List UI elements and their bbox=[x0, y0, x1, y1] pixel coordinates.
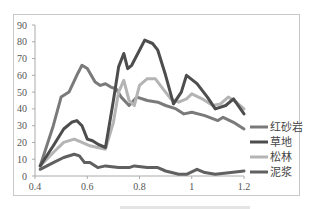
series-line-0 bbox=[40, 65, 244, 166]
series-line-1 bbox=[40, 40, 244, 166]
x-tick-label: 0.6 bbox=[81, 181, 94, 192]
y-tick-label: 50 bbox=[17, 87, 27, 98]
legend-label: 松林 bbox=[270, 150, 292, 164]
legend-label: 红砂岩 bbox=[270, 120, 303, 134]
legend-item: 松林 bbox=[250, 150, 292, 164]
x-tick-label: 1.2 bbox=[238, 181, 251, 192]
y-tick-label: 40 bbox=[17, 103, 27, 114]
y-tick-label: 80 bbox=[17, 36, 27, 47]
y-tick-label: 20 bbox=[17, 137, 27, 148]
legend-label: 草地 bbox=[270, 136, 292, 149]
series-line-3 bbox=[40, 154, 244, 174]
legend-item: 泥浆 bbox=[250, 165, 292, 179]
figure-caption-fragment bbox=[120, 206, 250, 209]
x-tick-label: 1 bbox=[189, 181, 194, 192]
y-tick-label: 10 bbox=[17, 154, 27, 165]
y-tick-label: 0 bbox=[22, 171, 27, 182]
y-tick-label: 60 bbox=[17, 70, 27, 81]
legend-item: 草地 bbox=[250, 136, 292, 149]
x-tick-label: 0.4 bbox=[29, 181, 42, 192]
legend-item: 红砂岩 bbox=[250, 120, 303, 134]
chart-legend: 红砂岩草地松林泥浆 bbox=[250, 120, 303, 179]
line-chart: 01020304050607080900.40.60.811.2 红砂岩草地松林… bbox=[0, 0, 320, 209]
y-tick-label: 90 bbox=[17, 20, 27, 31]
y-tick-label: 30 bbox=[17, 120, 27, 131]
y-tick-label: 70 bbox=[17, 53, 27, 64]
chart-series bbox=[40, 40, 244, 174]
legend-label: 泥浆 bbox=[270, 165, 292, 179]
x-tick-label: 0.8 bbox=[133, 181, 146, 192]
